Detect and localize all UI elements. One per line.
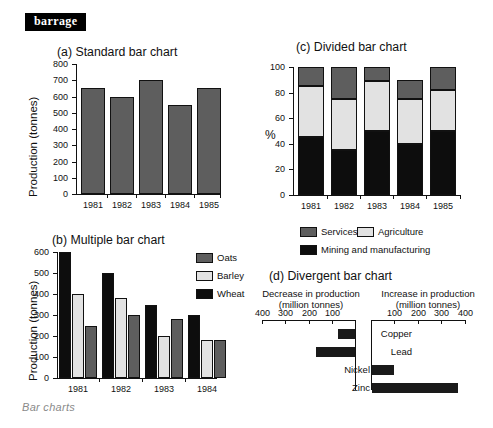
stack-1981-services — [298, 67, 324, 86]
chart-b-ytick-600: 600 — [23, 248, 49, 257]
legend-item-barley: Barley — [196, 271, 244, 281]
chart-a-xtick-1984: 1984 — [166, 201, 194, 210]
bar-1985 — [197, 88, 221, 194]
legend-item-wheat: Wheat — [196, 289, 244, 299]
bar-1984-barley — [201, 340, 213, 378]
chart-d-right-tick-200: 200 — [406, 309, 431, 318]
legend-label-wheat: Wheat — [217, 289, 244, 299]
figure-caption: Bar charts — [22, 401, 75, 413]
stack-1981-agriculture — [298, 86, 324, 137]
chart-b-ytick-500: 500 — [23, 269, 49, 278]
chart-a-ytick-600: 600 — [42, 93, 68, 102]
legend-swatch-agriculture — [357, 227, 374, 237]
chart-b-title: (b) Multiple bar chart — [52, 233, 165, 247]
bar-1982-wheat — [102, 273, 114, 378]
chart-b-xtick-1981: 1981 — [64, 385, 92, 394]
chart-a-xtick-1985: 1985 — [195, 201, 223, 210]
chart-d-left-tick-100: 100 — [320, 309, 345, 318]
chart-c-x-axis — [293, 195, 461, 196]
legend-label-mining: Mining and manufacturing — [321, 245, 430, 255]
chart-a-ytick-0: 0 — [42, 190, 68, 199]
chart-a-ytick-200: 200 — [42, 158, 68, 167]
legend-item-agriculture: Agriculture — [357, 227, 423, 237]
chart-c-ytick-60: 60 — [259, 114, 285, 123]
chart-d-right-tick-400: 400 — [453, 309, 478, 318]
chart-d-left-tick-300: 300 — [273, 309, 298, 318]
legend-item-services: Services — [300, 227, 357, 237]
chart-d-category-nickel: Nickel — [258, 365, 370, 375]
stack-1981-mining — [298, 137, 324, 195]
bar-1981-barley — [72, 294, 84, 378]
bar-1983 — [139, 80, 163, 194]
legend-swatch-services — [300, 227, 317, 237]
chart-c-ytick-80: 80 — [259, 89, 285, 98]
chart-c-ytick-40: 40 — [259, 140, 285, 149]
divergent-bar-zinc — [372, 383, 458, 393]
legend-label-services: Services — [321, 227, 357, 237]
bar-1981 — [81, 88, 105, 194]
chart-c-ytick-20: 20 — [259, 165, 285, 174]
chart-d-left-tick-400: 400 — [250, 309, 275, 318]
badge-label: barrage — [34, 14, 77, 28]
chart-c-xtick-1983: 1983 — [363, 202, 391, 211]
chart-c-xtick-1981: 1981 — [297, 202, 325, 211]
chart-d-left-tick-200: 200 — [297, 309, 322, 318]
stack-1982-services — [331, 67, 357, 99]
bar-1983-wheat — [145, 305, 157, 379]
chart-a-ytick-400: 400 — [42, 125, 68, 134]
bar-1981-wheat — [59, 252, 71, 378]
chart-d-category-lead: Lead — [300, 347, 412, 357]
stack-1983-mining — [364, 131, 390, 195]
chart-b-ytick-200: 200 — [23, 332, 49, 341]
chart-b-ytick-0: 0 — [23, 374, 49, 383]
legend-label-oats: Oats — [217, 253, 237, 263]
chart-a-title: (a) Standard bar chart — [57, 45, 177, 59]
stack-1984-agriculture — [397, 99, 423, 144]
chart-a-ytick-500: 500 — [42, 109, 68, 118]
chart-b-xtick-1982: 1982 — [107, 385, 135, 394]
barrage-badge: barrage — [25, 13, 86, 31]
chart-a-ytick-300: 300 — [42, 141, 68, 150]
stack-1982-mining — [331, 150, 357, 195]
chart-d-left-axis-title-line1: Decrease in production — [251, 288, 371, 299]
legend-item-mining: Mining and manufacturing — [300, 245, 430, 255]
chart-a-ytick-100: 100 — [42, 174, 68, 183]
chart-d-category-zinc: Zinc — [258, 383, 370, 393]
chart-b-xtick-1983: 1983 — [150, 385, 178, 394]
chart-a-ytick-800: 800 — [42, 60, 68, 69]
bar-1983-barley — [158, 336, 170, 378]
bar-1983-oats — [171, 319, 183, 378]
bar-1984-oats — [214, 340, 226, 378]
legend-label-agriculture: Agriculture — [378, 227, 423, 237]
chart-c-ytick-100: 100 — [259, 63, 285, 72]
chart-a-y-axis-title: Production (tonnes) — [27, 97, 39, 197]
chart-a-xtick-1983: 1983 — [137, 201, 165, 210]
stack-1984-services — [397, 80, 423, 99]
chart-b-y-axis — [57, 252, 58, 379]
stack-1985-mining — [430, 131, 456, 195]
chart-c-title: (c) Divided bar chart — [296, 40, 407, 54]
chart-b-ytick-100: 100 — [23, 353, 49, 362]
bar-1982-oats — [128, 315, 140, 378]
chart-c-xtick-1984: 1984 — [396, 202, 424, 211]
chart-d-title: (d) Divergent bar chart — [269, 269, 392, 283]
chart-a-xtick-1982: 1982 — [108, 201, 136, 210]
chart-b-x-axis — [57, 378, 217, 379]
chart-a-ytick-700: 700 — [42, 76, 68, 85]
chart-d-right-axis-title-line1: Increase in production — [368, 288, 488, 299]
chart-a-y-axis — [76, 64, 77, 195]
stack-1984-mining — [397, 144, 423, 195]
chart-d-right-tick-100: 100 — [382, 309, 407, 318]
bar-1981-oats — [85, 326, 97, 379]
chart-d-category-copper: Copper — [300, 329, 412, 339]
chart-b-ytick-300: 300 — [23, 311, 49, 320]
chart-a-x-axis — [76, 194, 220, 195]
legend-item-oats: Oats — [196, 253, 237, 263]
chart-a-xtick-1981: 1981 — [79, 201, 107, 210]
stack-1985-services — [430, 67, 456, 90]
chart-b-xtick-1984: 1984 — [193, 385, 221, 394]
chart-c-xtick-1985: 1985 — [429, 202, 457, 211]
bar-1984 — [168, 105, 192, 194]
legend-swatch-oats — [196, 253, 213, 263]
stack-1983-services — [364, 67, 390, 81]
